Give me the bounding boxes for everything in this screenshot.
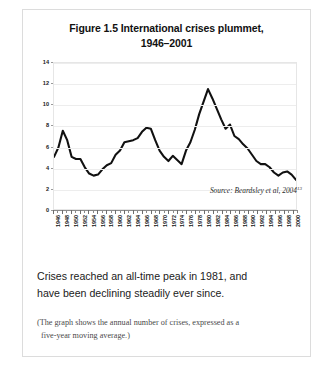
note-line-1: (The graph shows the annual number of cr… xyxy=(37,318,239,327)
y-axis-tick-label: 2 xyxy=(46,186,49,192)
x-axis-tick xyxy=(93,210,94,213)
y-axis-tick-label: 8 xyxy=(46,122,49,128)
y-gridline xyxy=(54,148,296,149)
source-text: Source: Beardsley et al, 2004 xyxy=(210,186,297,195)
x-axis-tick xyxy=(106,210,107,214)
x-axis-tick xyxy=(279,210,280,213)
x-axis-tick-label: 1980 xyxy=(206,215,212,227)
x-axis-tick xyxy=(128,210,129,213)
x-axis-tick-label: 1956 xyxy=(100,215,106,227)
x-axis-tick xyxy=(257,210,258,214)
x-axis-tick xyxy=(191,210,192,213)
x-axis-tick xyxy=(120,210,121,213)
y-axis-tick-label: 0 xyxy=(46,207,49,213)
figure-title: Figure 1.5 International crises plummet,… xyxy=(23,21,310,51)
x-axis-tick-label: 1996 xyxy=(277,215,283,227)
x-axis-tick xyxy=(195,210,196,214)
figure-note: (The graph shows the annual number of cr… xyxy=(37,316,299,342)
x-axis-tick xyxy=(146,210,147,213)
x-axis-tick xyxy=(133,210,134,214)
x-axis-tick xyxy=(222,210,223,214)
y-axis-tick xyxy=(51,62,53,63)
note-line-2: five-year moving average.) xyxy=(41,329,299,342)
x-axis-line xyxy=(53,210,297,211)
x-axis-tick xyxy=(66,210,67,213)
x-axis-tick xyxy=(53,210,54,214)
y-gridline xyxy=(54,105,296,106)
x-axis-tick xyxy=(124,210,125,214)
x-axis-tick-label: 1992 xyxy=(259,215,265,227)
x-axis-tick xyxy=(151,210,152,214)
x-axis-tick xyxy=(266,210,267,214)
x-axis-tick xyxy=(204,210,205,214)
x-axis-tick xyxy=(80,210,81,214)
x-axis-tick xyxy=(71,210,72,214)
y-axis-tick xyxy=(51,83,53,84)
x-axis-tick-label: 1978 xyxy=(197,215,203,227)
x-axis-tick xyxy=(111,210,112,213)
y-axis-tick xyxy=(51,125,53,126)
x-axis-tick xyxy=(199,210,200,213)
x-axis-tick xyxy=(142,210,143,214)
x-axis-tick xyxy=(230,210,231,214)
y-axis-tick xyxy=(51,189,53,190)
figure-title-line-1: Figure 1.5 International crises plummet, xyxy=(23,21,310,36)
x-axis-tick-label: 1972 xyxy=(171,215,177,227)
x-axis-tick xyxy=(248,210,249,214)
y-gridline xyxy=(54,63,296,64)
x-axis-tick-label: 1994 xyxy=(268,215,274,227)
x-axis-tick-label: 1946 xyxy=(55,215,61,227)
x-axis-tick xyxy=(57,210,58,213)
x-axis-tick xyxy=(270,210,271,213)
y-axis-tick-label: 14 xyxy=(43,59,49,65)
x-axis-tick xyxy=(62,210,63,214)
x-axis-tick xyxy=(102,210,103,213)
x-axis-tick xyxy=(182,210,183,213)
y-axis-tick xyxy=(51,168,53,169)
x-axis-tick xyxy=(115,210,116,214)
x-axis-tick xyxy=(168,210,169,214)
x-axis-tick-label: 1986 xyxy=(233,215,239,227)
source-citation: Source: Beardsley et al, 200413 xyxy=(210,186,302,195)
x-axis-tick xyxy=(208,210,209,213)
y-axis-tick-label: 4 xyxy=(46,165,49,171)
x-axis-tick-label: 1958 xyxy=(108,215,114,227)
x-axis-tick-label: 1974 xyxy=(179,215,185,227)
x-axis-tick-label: 1970 xyxy=(162,215,168,227)
x-axis-tick-label: 1962 xyxy=(126,215,132,227)
y-gridline xyxy=(54,126,296,127)
x-axis-tick-label: 2000 xyxy=(295,215,301,227)
x-axis-tick xyxy=(84,210,85,213)
x-axis-tick-label: 1998 xyxy=(286,215,292,227)
x-axis-tick-label: 1982 xyxy=(215,215,221,227)
x-axis-tick-label: 1952 xyxy=(82,215,88,227)
caption-line-1: Crises reached an all-time peak in 1981,… xyxy=(37,268,299,285)
x-axis-tick xyxy=(88,210,89,214)
x-axis-tick xyxy=(173,210,174,213)
caption-line-2: have been declining steadily ever since. xyxy=(37,285,299,302)
x-axis-tick xyxy=(262,210,263,213)
y-axis-tick xyxy=(51,104,53,105)
line-chart: 0246810121419461948195019521954195619581… xyxy=(29,58,306,254)
x-axis-tick xyxy=(164,210,165,213)
x-axis-tick xyxy=(253,210,254,213)
source-footnote-marker: 13 xyxy=(297,186,302,191)
y-axis-tick xyxy=(51,147,53,148)
x-axis-tick-label: 1950 xyxy=(73,215,79,227)
x-axis-tick xyxy=(213,210,214,214)
x-axis-tick-label: 1988 xyxy=(242,215,248,227)
figure-container: Figure 1.5 International crises plummet,… xyxy=(22,9,311,357)
y-axis-tick-label: 10 xyxy=(43,101,49,107)
x-axis-tick xyxy=(97,210,98,214)
x-axis-tick xyxy=(275,210,276,214)
x-axis-tick xyxy=(177,210,178,214)
x-axis-tick-label: 1984 xyxy=(224,215,230,227)
y-axis-tick-label: 6 xyxy=(46,144,49,150)
x-axis-tick xyxy=(297,210,298,213)
x-axis-tick-label: 1976 xyxy=(188,215,194,227)
x-axis-tick xyxy=(226,210,227,213)
y-axis-tick-label: 12 xyxy=(43,80,49,86)
x-axis-tick-label: 1966 xyxy=(144,215,150,227)
x-axis-tick-label: 1960 xyxy=(117,215,123,227)
x-axis-tick xyxy=(217,210,218,213)
